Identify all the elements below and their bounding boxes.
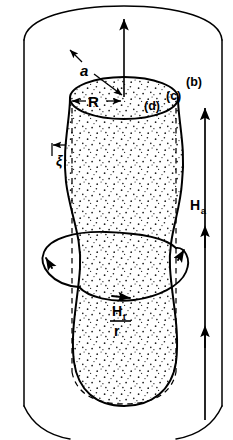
- diagram-canvas: a R ξ (b) (c) (d) Ha Ht r: [0, 0, 233, 440]
- flux-column-diagram: a R ξ (b) (c) (d) Ha Ht r: [0, 0, 233, 440]
- label-dashed-boundary-tag: (c): [166, 89, 181, 103]
- label-outer-radius: a: [80, 62, 88, 79]
- azimuthal-field-denominator: r: [114, 323, 120, 339]
- label-outer-cylinder-tag: (b): [186, 75, 202, 89]
- label-solid-boundary-tag: (d): [144, 99, 160, 113]
- label-penetration-depth: ξ: [56, 153, 63, 169]
- label-core-radius: R: [88, 93, 99, 110]
